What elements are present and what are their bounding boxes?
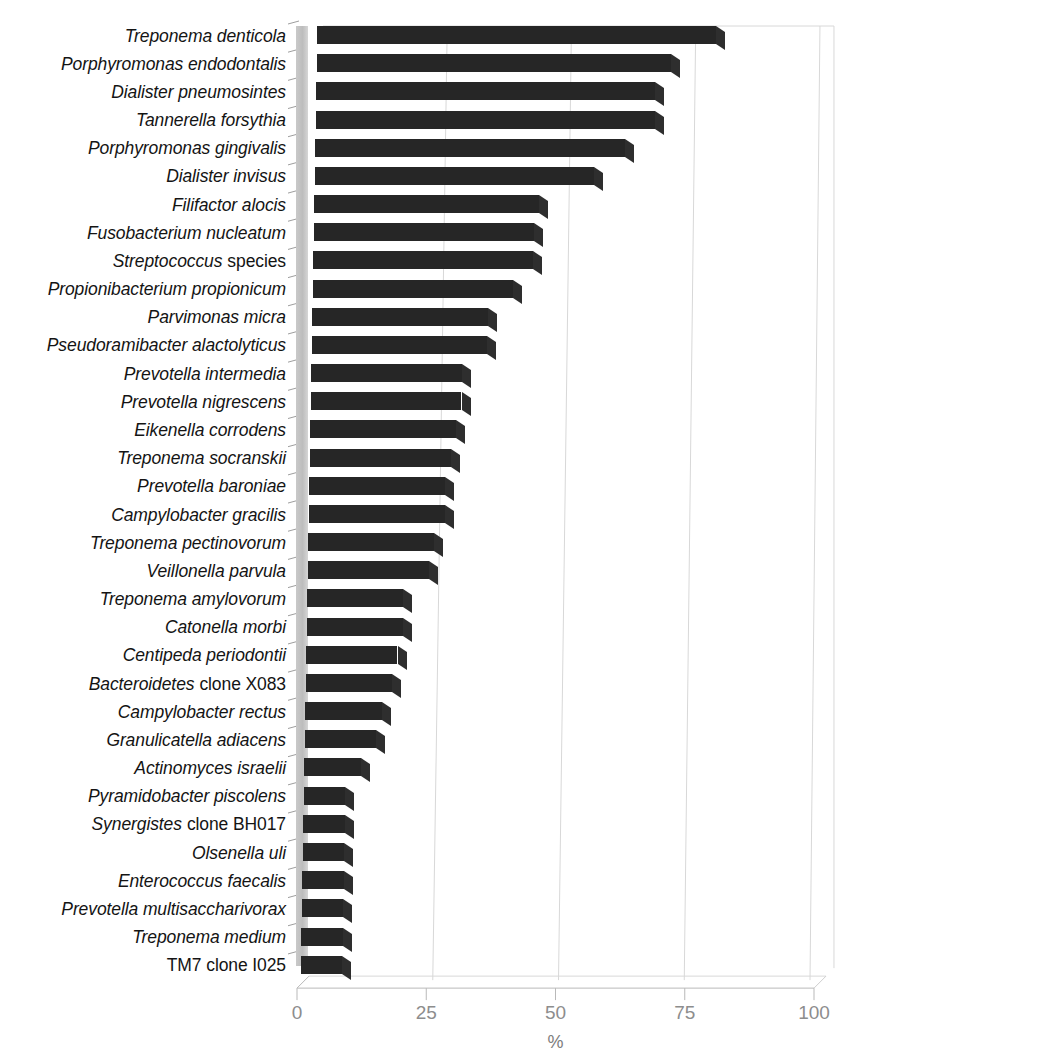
x-axis-title: % [547, 1032, 563, 1053]
x-tick-label-100: 100 [798, 1002, 830, 1024]
bar-chart: Treponema denticolaPorphyromonas endodon… [0, 0, 1053, 1055]
x-tick-label-25: 25 [416, 1002, 437, 1024]
x-tick-label-50: 50 [545, 1002, 566, 1024]
x-tick-label-0: 0 [292, 1002, 303, 1024]
x-axis-tick-labels: 0255075100% [0, 0, 1053, 1055]
x-tick-label-75: 75 [674, 1002, 695, 1024]
